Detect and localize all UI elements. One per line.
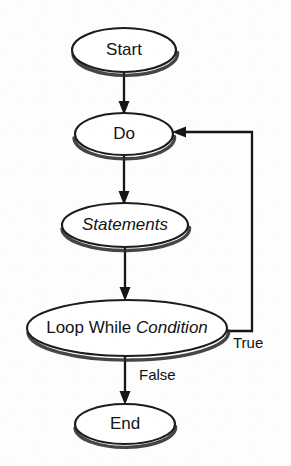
node-loop-while-condition[interactable]: Loop While Condition [27, 300, 229, 360]
node-loop-while-condition-label: Loop While Condition [46, 318, 208, 337]
edge-start-to-do [119, 72, 130, 115]
edge-do-to-statements [119, 155, 130, 205]
node-statements[interactable]: Statements [62, 203, 190, 251]
edge-label-false: False [139, 366, 176, 383]
node-do-label: Do [113, 124, 135, 143]
edge-loop-to-do-true-path [182, 132, 252, 331]
loop-while-text: Loop While [46, 318, 136, 337]
edge-label-true: True [233, 334, 263, 351]
node-end-label: End [110, 414, 140, 433]
edge-statements-to-loop [120, 247, 131, 301]
node-do[interactable]: Do [74, 113, 175, 159]
node-start-label: Start [106, 40, 142, 59]
flowchart-diagram: Start Do Statements Loop While Condition [0, 0, 291, 466]
edge-statements-to-loop-arrowhead [120, 287, 131, 301]
condition-text: Condition [136, 318, 208, 337]
node-statements-label: Statements [82, 215, 168, 234]
node-end[interactable]: End [75, 404, 176, 447]
node-start[interactable]: Start [72, 28, 178, 75]
edge-loop-to-end-false [120, 356, 131, 405]
edge-loop-to-end-false-arrowhead [120, 391, 131, 405]
flowchart-canvas: Start Do Statements Loop While Condition [0, 0, 291, 466]
